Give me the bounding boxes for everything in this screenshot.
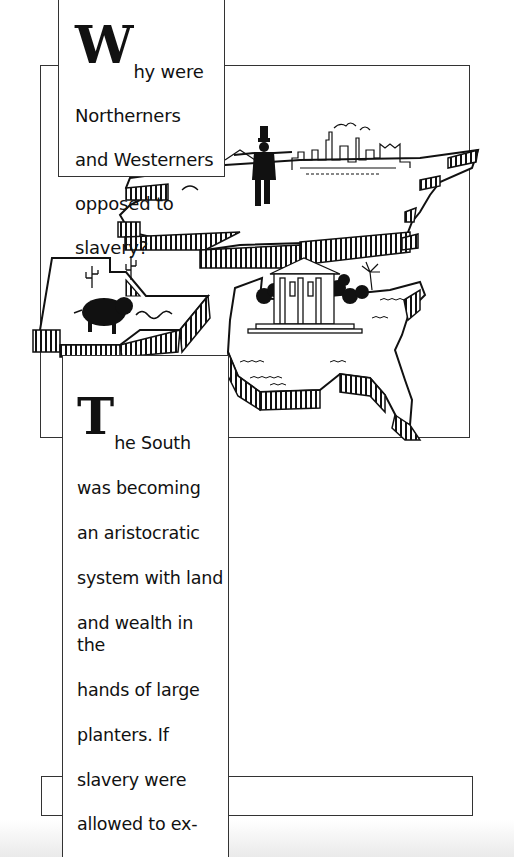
answer-text: he South was becoming an aristocratic sy… (77, 394, 224, 857)
answer-line: and wealth in the (77, 612, 224, 657)
answer-caption-box: T he South was becoming an aristocratic … (62, 355, 229, 857)
answer-line: was becoming (77, 477, 224, 499)
answer-line: hands of large (77, 679, 224, 701)
question-line: Northerners (75, 105, 216, 127)
answer-line: planters. If (77, 724, 224, 746)
drop-cap: W (75, 25, 131, 65)
answer-line: allowed to ex- (77, 813, 224, 835)
question-line: slavery? (75, 237, 216, 259)
answer-line: system with land (77, 567, 224, 589)
question-line: and Westerners (75, 149, 216, 171)
drop-cap: T (77, 396, 112, 438)
question-caption-box: W hy were Northerners and Westerners opp… (58, 0, 225, 177)
question-line: opposed to (75, 193, 216, 215)
answer-line: an aristocratic (77, 522, 224, 544)
answer-line: slavery were (77, 769, 224, 791)
